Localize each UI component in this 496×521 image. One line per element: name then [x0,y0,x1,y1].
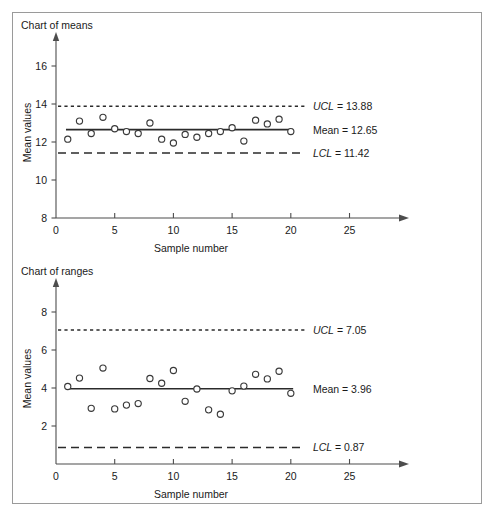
data-point-marker [76,375,82,381]
data-point-marker [170,140,176,146]
data-point-marker [264,376,270,382]
data-point-marker [88,130,94,136]
chart-of-ranges-title: Chart of ranges [21,265,93,277]
data-point-marker [100,114,106,120]
x-tick-label: 25 [344,470,356,482]
data-point-marker [241,383,247,389]
ranges-ucl-annotation: UCL [313,324,334,336]
y-tick-label: 8 [41,212,47,224]
ranges-y-axis-label: Mean values [21,349,33,409]
data-point-marker [194,134,200,140]
means-ucl-value: = 13.88 [337,100,372,112]
y-tick-label: 12 [35,136,47,148]
y-tick-label: 6 [41,344,47,356]
data-point-marker [123,128,129,134]
x-tick-label: 5 [112,224,118,236]
ranges-ucl-value: = 7.05 [337,324,367,336]
x-tick-label: 25 [344,224,356,236]
data-point-marker [123,402,129,408]
data-point-marker [65,136,71,142]
y-tick-label: 10 [35,174,47,186]
x-tick-label: 20 [285,470,297,482]
ranges-x-axis-label: Sample number [154,488,229,500]
chart-of-means-panel: Chart of means8101214160510152025Sample … [13,13,481,259]
x-tick-label: 0 [53,224,59,236]
data-point-marker [65,383,71,389]
ranges-lcl-annotation: LCL [313,441,332,453]
y-tick-label: 14 [35,98,47,110]
data-point-marker [135,400,141,406]
data-point-marker [182,398,188,404]
data-point-marker [206,130,212,136]
x-axis-arrow-icon [399,215,409,222]
x-tick-label: 10 [168,224,180,236]
data-point-marker [147,120,153,126]
data-point-marker [135,130,141,136]
data-point-marker [112,406,118,412]
data-point-marker [182,131,188,137]
x-tick-label: 20 [285,224,297,236]
data-point-marker [217,128,223,134]
figure-frame: Chart of means8101214160510152025Sample … [12,12,482,504]
data-point-marker [217,411,223,417]
data-point-marker [76,118,82,124]
ranges-lcl-value: = 0.87 [335,441,365,453]
data-point-marker [194,386,200,392]
x-tick-label: 0 [53,470,59,482]
chart-of-means-title: Chart of means [21,19,93,31]
data-point-marker [241,138,247,144]
x-axis-arrow-icon [399,461,409,468]
means-lcl-value: = 11.42 [335,147,370,159]
data-point-marker [170,367,176,373]
y-tick-label: 2 [41,420,47,432]
means-mean-annotation: Mean = 12.65 [313,124,378,136]
data-point-marker [276,368,282,374]
chart-of-ranges-svg: Chart of ranges24680510152025Sample numb… [13,259,483,505]
y-axis-arrow-icon [53,32,59,41]
x-tick-label: 15 [226,470,238,482]
x-tick-label: 5 [112,470,118,482]
chart-of-ranges-panel: Chart of ranges24680510152025Sample numb… [13,259,481,505]
y-tick-label: 16 [35,60,47,72]
data-point-marker [288,128,294,134]
data-point-marker [88,405,94,411]
data-point-marker [159,380,165,386]
ranges-data-points [65,365,294,417]
means-ucl-annotation: UCL [313,100,334,112]
data-point-marker [264,121,270,127]
data-point-marker [112,126,118,132]
data-point-marker [252,117,258,123]
data-point-marker [147,375,153,381]
y-tick-label: 4 [41,382,47,394]
y-tick-label: 8 [41,306,47,318]
data-point-marker [229,125,235,131]
means-y-axis-label: Mean values [21,103,33,163]
figure-page: Chart of means8101214160510152025Sample … [0,0,496,521]
means-x-axis-label: Sample number [154,242,229,254]
means-lcl-annotation: LCL [313,147,332,159]
ranges-mean-annotation: Mean = 3.96 [313,383,372,395]
chart-of-means-svg: Chart of means8101214160510152025Sample … [13,13,483,259]
data-point-marker [100,365,106,371]
data-point-marker [276,116,282,122]
data-point-marker [252,371,258,377]
data-point-marker [159,136,165,142]
data-point-marker [206,407,212,413]
x-tick-label: 15 [226,224,238,236]
data-point-marker [229,388,235,394]
y-axis-arrow-icon [53,278,59,287]
data-point-marker [288,390,294,396]
x-tick-label: 10 [168,470,180,482]
